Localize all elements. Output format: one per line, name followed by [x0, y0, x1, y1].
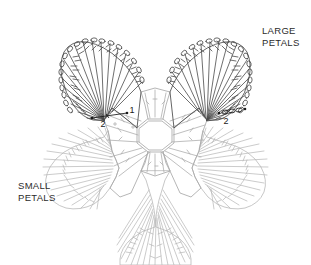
pattern-canvas: LARGE PETALS SMALL PETALS 1 2 2	[0, 0, 311, 265]
label-large-petals: LARGE PETALS	[262, 25, 300, 48]
small-petals-line1: SMALL	[18, 180, 51, 191]
round-number-2-left: 2	[100, 119, 105, 129]
round-number-1: 1	[129, 105, 134, 115]
crochet-pattern-diagram: LARGE PETALS SMALL PETALS 1 2 2	[0, 0, 311, 265]
marker-dot-left-inner	[126, 112, 129, 115]
label-small-petals: SMALL PETALS	[18, 180, 56, 203]
round-number-2-right: 2	[223, 116, 228, 126]
large-petals-line2: PETALS	[262, 37, 300, 48]
small-petals-line2: PETALS	[18, 192, 56, 203]
large-petals-line1: LARGE	[262, 25, 296, 36]
marker-dot-right-outer	[244, 108, 247, 111]
marker-dot-right-inner	[218, 112, 221, 115]
